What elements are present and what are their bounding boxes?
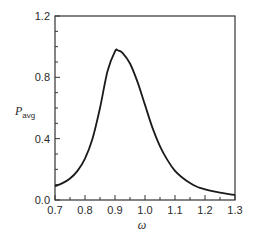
y-axis-ticks: 0.00.40.81.2 xyxy=(35,10,60,206)
x-axis-ticks: 0.70.80.91.01.11.21.3 xyxy=(47,195,242,216)
x-axis-label: ω xyxy=(138,218,146,232)
chart: 0.00.40.81.2 0.70.80.91.01.11.21.3 Pavg … xyxy=(0,0,254,240)
x-tick-label: 1.3 xyxy=(227,204,242,216)
x-tick-label: 0.9 xyxy=(107,204,122,216)
y-axis-label: Pavg xyxy=(14,104,35,120)
x-tick-label: 1.2 xyxy=(197,204,212,216)
data-line-p-avg xyxy=(55,49,235,194)
x-tick-label: 1.1 xyxy=(167,204,182,216)
y-tick-label: 0.8 xyxy=(35,71,50,83)
x-tick-label: 1.0 xyxy=(137,204,152,216)
y-tick-label: 1.2 xyxy=(35,10,50,22)
plot-frame xyxy=(55,16,235,200)
y-tick-label: 0.4 xyxy=(35,133,50,145)
x-tick-label: 0.7 xyxy=(47,204,62,216)
x-tick-label: 0.8 xyxy=(77,204,92,216)
